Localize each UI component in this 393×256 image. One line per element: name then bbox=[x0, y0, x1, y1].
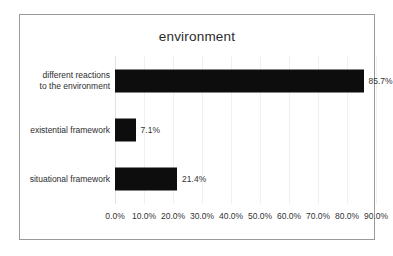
category-label-line: to the environment bbox=[40, 81, 110, 92]
bar-row: situational framework 21.4% bbox=[115, 155, 376, 204]
category-label-line: existential framework bbox=[30, 124, 110, 135]
category-label: existential framework bbox=[30, 124, 110, 135]
category-label: situational framework bbox=[30, 174, 110, 185]
x-tick-label: 20.0% bbox=[161, 211, 185, 221]
x-tick-label: 40.0% bbox=[219, 211, 243, 221]
x-tick-label: 80.0% bbox=[335, 211, 359, 221]
x-tick-label: 70.0% bbox=[306, 211, 330, 221]
plot-area: different reactions to the environment 8… bbox=[115, 56, 376, 204]
bar-value-label: 21.4% bbox=[177, 174, 206, 184]
x-axis-tick-labels: 0.0% 10.0% 20.0% 30.0% 40.0% 50.0% 60.0%… bbox=[115, 211, 376, 225]
chart-container: environment different reactions to the e… bbox=[19, 14, 375, 240]
category-label-line: situational framework bbox=[30, 174, 110, 185]
x-tick-label: 50.0% bbox=[248, 211, 272, 221]
bar-row: different reactions to the environment 8… bbox=[115, 56, 376, 105]
bar-different-reactions-to-the-environment[interactable] bbox=[115, 69, 364, 92]
category-label: different reactions to the environment bbox=[40, 70, 110, 92]
x-tick-label: 30.0% bbox=[190, 211, 214, 221]
category-label-line: different reactions bbox=[40, 70, 110, 81]
bar-situational-framework[interactable] bbox=[115, 168, 177, 191]
bar-value-label: 7.1% bbox=[136, 125, 160, 135]
bar-existential-framework[interactable] bbox=[115, 118, 136, 141]
bar-value-label: 85.7% bbox=[364, 76, 393, 86]
x-tick-label: 0.0% bbox=[105, 211, 124, 221]
x-tick-label: 60.0% bbox=[277, 211, 301, 221]
chart-title: environment bbox=[20, 29, 374, 44]
bar-row: existential framework 7.1% bbox=[115, 105, 376, 154]
x-tick-label: 90.0% bbox=[364, 211, 388, 221]
x-tick-label: 10.0% bbox=[132, 211, 156, 221]
